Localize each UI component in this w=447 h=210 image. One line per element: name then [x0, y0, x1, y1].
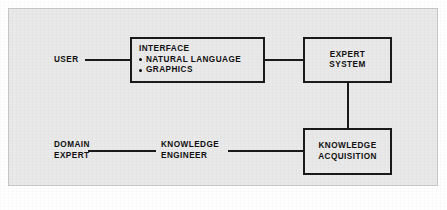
knowledge-engineer-line-2: ENGINEER	[161, 150, 219, 161]
connector-interface-to-expert-system	[265, 59, 303, 61]
label-user: USER	[54, 54, 79, 65]
interface-heading: INTERFACE	[139, 44, 263, 55]
interface-item-0: NATURAL LANGUAGE	[139, 55, 263, 66]
knowledge-acquisition-line-1: KNOWLEDGE	[318, 141, 376, 152]
knowledge-acquisition-line-2: ACQUISITION	[318, 152, 377, 163]
expert-system-line-1: EXPERT	[330, 50, 365, 61]
connector-knowledge-engineer-to-knowledge-acquisition	[228, 150, 303, 152]
domain-expert-line-1: DOMAIN	[54, 139, 90, 150]
interface-item-1: GRAPHICS	[139, 65, 263, 76]
interface-item-0-label: NATURAL LANGUAGE	[146, 55, 241, 66]
expert-system-line-2: SYSTEM	[329, 60, 365, 71]
node-interface[interactable]: INTERFACE NATURAL LANGUAGE GRAPHICS	[130, 37, 265, 83]
diagram-canvas: INTERFACE NATURAL LANGUAGE GRAPHICS EXPE…	[0, 0, 447, 210]
interface-item-1-label: GRAPHICS	[146, 65, 193, 76]
connector-user-to-interface	[85, 59, 130, 61]
domain-expert-line-2: EXPERT	[54, 150, 90, 161]
bullet-icon	[139, 69, 142, 72]
bullet-icon	[139, 58, 142, 61]
connector-expert-system-to-knowledge-acquisition	[347, 83, 349, 128]
node-knowledge-acquisition[interactable]: KNOWLEDGE ACQUISITION	[303, 128, 392, 175]
label-knowledge-engineer: KNOWLEDGE ENGINEER	[161, 139, 219, 161]
connector-domain-expert-to-knowledge-engineer	[88, 150, 156, 152]
label-domain-expert: DOMAIN EXPERT	[54, 139, 90, 161]
node-expert-system[interactable]: EXPERT SYSTEM	[303, 37, 392, 83]
knowledge-engineer-line-1: KNOWLEDGE	[161, 139, 219, 150]
